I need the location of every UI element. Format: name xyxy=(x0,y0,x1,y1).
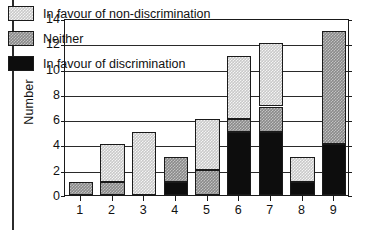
y-axis-tick-mark xyxy=(61,146,65,147)
bar-group xyxy=(259,18,283,195)
y-axis-tick-mark xyxy=(61,172,65,173)
y-axis-tick-mark xyxy=(61,96,65,97)
x-axis-tick-mark xyxy=(270,196,271,201)
x-axis-tick-label: 8 xyxy=(287,203,317,217)
legend-label: In favour of discrimination xyxy=(43,57,185,71)
y-axis-tick-label: 2 xyxy=(38,164,60,178)
x-axis-tick-mark xyxy=(302,196,303,201)
y-axis-tick-label: 4 xyxy=(38,138,60,152)
y-axis-tick-mark xyxy=(348,71,352,72)
x-axis-tick-mark xyxy=(207,196,208,201)
y-axis-tick-mark xyxy=(61,121,65,122)
legend-label: In favour of non-discrimination xyxy=(43,7,210,21)
x-axis-tick-mark xyxy=(143,196,144,201)
bar-segment xyxy=(227,119,251,132)
bar-segment xyxy=(195,119,219,170)
x-axis-tick-mark xyxy=(80,196,81,201)
legend-item: In favour of discrimination xyxy=(8,53,244,74)
bar-segment xyxy=(259,43,283,106)
bar-segment xyxy=(290,182,314,195)
x-axis-tick-label: 5 xyxy=(192,203,222,217)
y-axis-tick-mark xyxy=(348,45,352,46)
x-axis-tick-label: 6 xyxy=(223,203,253,217)
bar-segment xyxy=(164,157,188,182)
stacked-bar-chart: Number 02468101214 123456789 In favour o… xyxy=(0,0,369,230)
x-axis-tick-label: 9 xyxy=(318,203,348,217)
bar-segment xyxy=(195,170,219,195)
bar-segment xyxy=(259,107,283,132)
x-axis-tick-label: 3 xyxy=(128,203,158,217)
x-axis-tick-mark xyxy=(112,196,113,201)
y-axis-tick-label: 0 xyxy=(38,189,60,203)
legend-swatch xyxy=(8,31,34,46)
bar-segment xyxy=(259,132,283,195)
bar-group xyxy=(322,18,346,195)
chart-legend: In favour of non-discriminationNeitherIn… xyxy=(8,3,244,78)
y-axis-tick-mark xyxy=(348,20,352,21)
bar-segment xyxy=(322,31,346,145)
legend-swatch xyxy=(8,56,34,71)
x-axis-tick-mark xyxy=(238,196,239,201)
bar-segment xyxy=(132,132,156,195)
legend-swatch xyxy=(8,6,34,21)
y-axis-tick-label: 6 xyxy=(38,113,60,127)
bar-group xyxy=(290,18,314,195)
x-axis-tick-label: 1 xyxy=(65,203,95,217)
y-axis-tick-mark xyxy=(348,172,352,173)
x-axis-tick-labels: 123456789 xyxy=(64,203,349,223)
x-axis-tick-label: 4 xyxy=(160,203,190,217)
x-axis-tick-label: 7 xyxy=(255,203,285,217)
x-axis-tick-label: 2 xyxy=(97,203,127,217)
legend-item: Neither xyxy=(8,28,244,49)
bar-segment xyxy=(164,182,188,195)
y-axis-tick-mark xyxy=(348,121,352,122)
y-axis-tick-mark xyxy=(348,146,352,147)
x-axis-tick-mark xyxy=(175,196,176,201)
legend-item: In favour of non-discrimination xyxy=(8,3,244,24)
y-axis-tick-mark xyxy=(348,96,352,97)
x-axis-tick-mark xyxy=(333,196,334,201)
y-axis-tick-label: 8 xyxy=(38,88,60,102)
legend-label: Neither xyxy=(43,32,83,46)
bar-segment xyxy=(290,157,314,182)
x-axis-tick-marks xyxy=(64,196,349,202)
bar-segment xyxy=(100,182,124,195)
bar-segment xyxy=(322,144,346,195)
bar-segment xyxy=(227,132,251,195)
bar-segment xyxy=(100,144,124,182)
bar-segment xyxy=(69,182,93,195)
